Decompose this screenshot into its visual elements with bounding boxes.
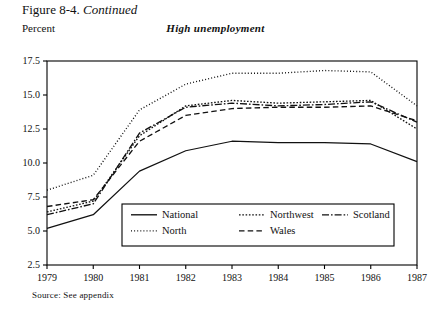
y-tick-label: 5.0 [28,225,41,236]
legend-label-north: North [162,225,187,236]
x-tick-label: 1982 [176,272,196,283]
source-note: Source: See appendix [32,290,114,301]
legend-label-northwest: Northwest [270,209,314,220]
y-axis-ticks: 2.55.07.510.012.515.017.5 [23,55,48,270]
y-tick-label: 17.5 [23,55,41,66]
line-chart-plot: 2.55.07.510.012.515.017.5 19791980198119… [0,0,431,319]
x-tick-label: 1987 [407,272,427,283]
chart-legend: NationalNorthwestScotlandNorthWales [122,204,394,246]
x-tick-label: 1983 [222,272,242,283]
y-tick-label: 15.0 [23,89,41,100]
x-axis-ticks: 197919801981198219831984198519861987 [37,265,427,283]
x-tick-label: 1979 [37,272,57,283]
y-tick-label: 2.5 [28,259,41,270]
series-line-northwest [47,100,417,212]
x-tick-label: 1980 [83,272,103,283]
x-tick-label: 1985 [315,272,335,283]
series-line-scotland [47,102,417,215]
legend-label-national: National [162,209,198,220]
legend-label-wales: Wales [270,225,295,236]
series-line-wales [47,106,417,207]
y-tick-label: 7.5 [28,191,41,202]
legend-label-scotland: Scotland [353,209,390,220]
y-tick-label: 10.0 [23,157,41,168]
series-line-north [47,71,417,191]
x-tick-label: 1981 [130,272,150,283]
figure-container: Figure 8-4. Continued Percent High unemp… [0,0,431,319]
y-tick-label: 12.5 [23,123,41,134]
x-tick-label: 1984 [268,272,288,283]
x-tick-label: 1986 [361,272,381,283]
